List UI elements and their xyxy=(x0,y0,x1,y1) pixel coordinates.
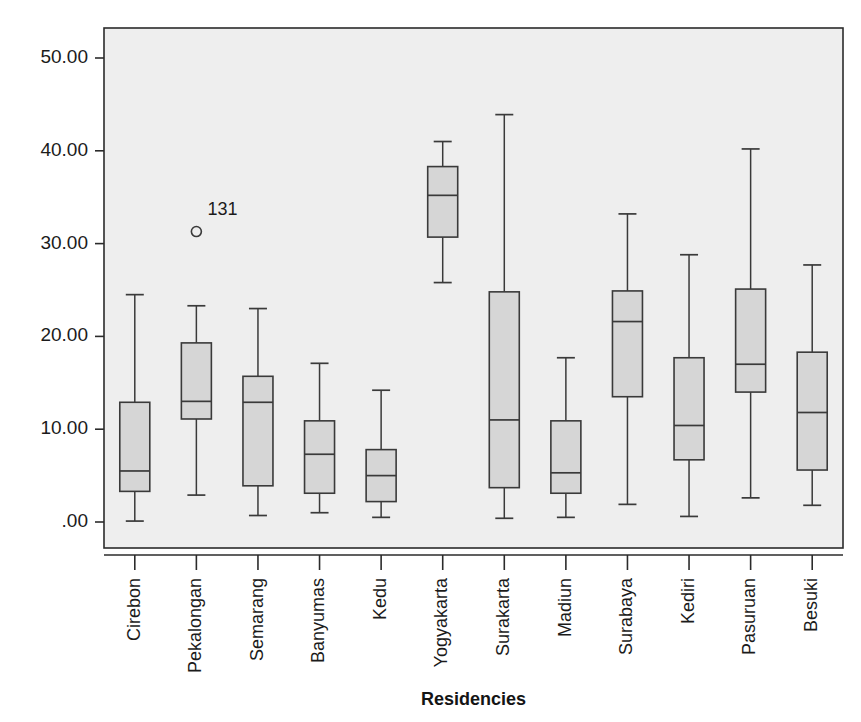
iqr-box xyxy=(489,292,519,488)
x-tick-label-kedu: Kedu xyxy=(370,578,390,620)
boxplot-chart: .0010.0020.0030.0040.0050.00 CirebonPeka… xyxy=(0,0,861,722)
iqr-box xyxy=(797,352,827,470)
iqr-box xyxy=(736,289,766,392)
iqr-box xyxy=(551,421,581,493)
x-tick-label-banyumas: Banyumas xyxy=(308,578,328,663)
iqr-box xyxy=(612,291,642,397)
x-axis-title: Residencies xyxy=(421,689,526,709)
x-tick-label-besuki: Besuki xyxy=(801,578,821,632)
outlier-label: 131 xyxy=(207,199,237,219)
iqr-box xyxy=(674,358,704,460)
y-tick-label: 20.00 xyxy=(40,324,88,345)
x-tick-label-cirebon: Cirebon xyxy=(124,578,144,641)
chart-canvas: .0010.0020.0030.0040.0050.00 CirebonPeka… xyxy=(0,0,861,722)
x-tick-label-pasuruan: Pasuruan xyxy=(739,578,759,655)
x-tick-label-kediri: Kediri xyxy=(678,578,698,624)
iqr-box xyxy=(243,376,273,486)
plot-area xyxy=(104,28,843,548)
x-tick-label-madiun: Madiun xyxy=(555,578,575,637)
plot-panel xyxy=(104,28,843,548)
x-tick-label-surakarta: Surakarta xyxy=(493,577,513,656)
iqr-box xyxy=(181,343,211,419)
y-tick-label: .00 xyxy=(62,510,88,531)
iqr-box xyxy=(428,167,458,238)
x-tick-label-yogyakarta: Yogyakarta xyxy=(431,577,451,667)
iqr-box xyxy=(305,421,335,493)
y-tick-label: 40.00 xyxy=(40,139,88,160)
x-tick-label-pekalongan: Pekalongan xyxy=(185,578,205,673)
axis-titles: Residencies xyxy=(421,689,526,709)
iqr-box xyxy=(120,402,150,491)
x-tick-label-surabaya: Surabaya xyxy=(616,577,636,655)
y-tick-label: 30.00 xyxy=(40,232,88,253)
y-tick-label: 50.00 xyxy=(40,46,88,67)
x-tick-label-semarang: Semarang xyxy=(247,578,267,661)
y-tick-label: 10.00 xyxy=(40,417,88,438)
